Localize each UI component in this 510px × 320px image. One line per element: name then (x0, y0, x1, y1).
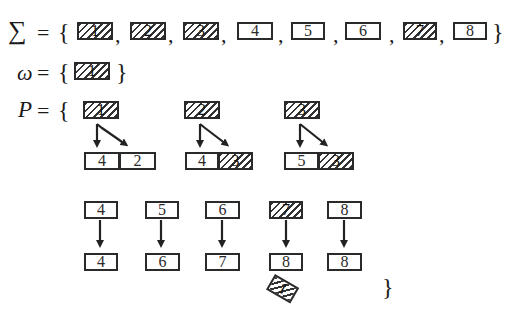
rule-1-arrows (97, 124, 125, 144)
omega-open-brace: { (58, 60, 70, 84)
rule-8-lhs-tile: 8 (327, 201, 362, 219)
rule-1-rhs-tile-a: 4 (84, 152, 120, 170)
rule-2-rhs-tile-b: 3 (219, 152, 253, 170)
separator: , (278, 24, 284, 46)
rule-1-rhs-tile-b: 2 (120, 152, 156, 170)
rule-3-rhs-tile-b: 3 (319, 152, 354, 170)
omega-symbol: ω (17, 62, 33, 84)
rule-3-arrows (300, 124, 325, 144)
rule-8-rhs-tile: 8 (327, 253, 362, 271)
separator: , (333, 24, 339, 46)
sigma-tile-1: 1 (77, 22, 113, 40)
sigma-tile-5: 5 (291, 22, 325, 40)
rule-5-lhs-tile: 5 (145, 201, 179, 219)
productions-open-brace: { (58, 98, 70, 122)
separator: , (389, 24, 395, 46)
rule-5-rhs-tile: 6 (145, 253, 180, 271)
sigma-close-brace: } (492, 20, 504, 44)
separator: , (168, 24, 174, 46)
productions-close-brace: } (382, 275, 394, 299)
sigma-tile-8: 8 (453, 22, 487, 40)
arrows-layer (0, 0, 510, 320)
separator: , (439, 24, 445, 46)
omega-equals: = (37, 62, 49, 84)
rule-1-lhs-tile: 1 (83, 101, 119, 119)
rule-7-rhs-tile-a: 8 (269, 253, 303, 271)
rule-2-arrows (200, 124, 226, 144)
rule-3-rhs: 5 3 (284, 152, 354, 170)
productions-equals: = (37, 100, 49, 122)
omega-close-brace: } (116, 60, 128, 84)
sigma-tile-2: 2 (130, 22, 166, 40)
productions-symbol: P (18, 99, 32, 121)
rule-1-rhs: 4 2 (84, 152, 156, 170)
sigma-equals: = (37, 22, 49, 44)
rule-4-lhs-tile: 4 (84, 201, 118, 219)
rule-3-rhs-tile-a: 5 (284, 152, 319, 170)
omega-tile-1: 1 (74, 62, 110, 80)
sigma-tile-6: 6 (345, 22, 381, 40)
sigma-tile-4: 4 (237, 22, 273, 40)
rule-6-lhs-tile: 6 (205, 201, 240, 219)
separator: , (115, 24, 121, 46)
rule-2-rhs: 4 3 (185, 152, 253, 170)
rule-7-lhs-tile: 7 (269, 201, 303, 219)
rule-6-rhs-tile: 7 (205, 253, 240, 271)
sigma-tile-3: 3 (183, 22, 219, 40)
sigma-symbol: ∑ (8, 20, 27, 42)
rule-4-rhs-tile: 4 (84, 253, 118, 271)
rule-2-rhs-tile-a: 4 (185, 152, 219, 170)
sigma-tile-7: 7 (403, 22, 437, 40)
rule-3-lhs-tile: 3 (284, 101, 320, 119)
sigma-open-brace: { (58, 20, 70, 44)
rule-2-lhs-tile: 2 (184, 101, 220, 119)
separator: , (221, 24, 227, 46)
